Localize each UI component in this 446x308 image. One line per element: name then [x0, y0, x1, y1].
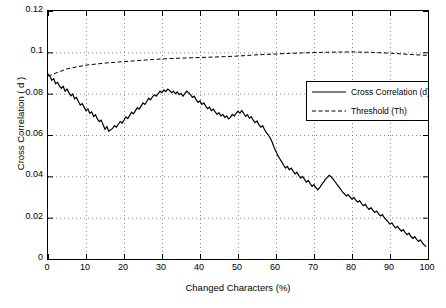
- chart-figure: Cross Correlation (d) Threshold (Th) 00.…: [0, 0, 446, 308]
- legend-label-cross-correlation: Cross Correlation (d): [351, 87, 429, 97]
- x-tick-label: 20: [108, 262, 138, 272]
- x-tick-label: 80: [336, 262, 366, 272]
- legend-item-1: Threshold (Th): [307, 101, 429, 120]
- x-tick-label: 30: [146, 262, 176, 272]
- x-tick-label: 100: [412, 262, 442, 272]
- legend-label-threshold: Threshold (Th): [351, 106, 407, 116]
- x-tick-label: 0: [32, 262, 62, 272]
- y-axis-title: Cross Correlation ( d ): [15, 44, 26, 204]
- plot-area: Cross Correlation (d) Threshold (Th): [47, 10, 429, 260]
- x-tick-label: 70: [298, 262, 328, 272]
- x-tick-label: 90: [374, 262, 404, 272]
- chart-legend: Cross Correlation (d) Threshold (Th): [306, 81, 429, 121]
- legend-line-solid-icon: [312, 87, 346, 97]
- x-tick-label: 50: [222, 262, 252, 272]
- y-tick-label: 0: [5, 252, 43, 262]
- x-axis-title: Changed Characters (%): [47, 282, 429, 293]
- y-tick-label: 0.02: [5, 211, 43, 221]
- data-layer: [48, 11, 428, 259]
- legend-item-0: Cross Correlation (d): [307, 82, 429, 101]
- x-tick-label: 40: [184, 262, 214, 272]
- x-tick-label: 60: [260, 262, 290, 272]
- legend-line-dashed-icon: [312, 106, 346, 116]
- x-tick-label: 10: [70, 262, 100, 272]
- y-tick-label: 0.12: [5, 4, 43, 14]
